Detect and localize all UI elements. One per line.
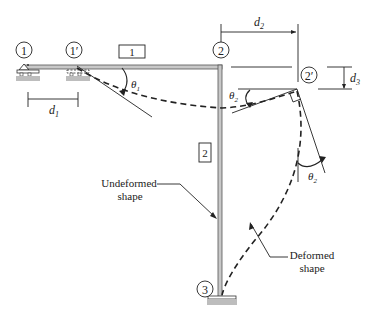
node-2-label: 2 [213, 42, 229, 58]
d1-label: d1 [49, 103, 59, 119]
tangent-line-1 [77, 66, 152, 117]
svg-text:2: 2 [202, 147, 208, 159]
svg-text:Undeformed: Undeformed [101, 177, 157, 189]
d2-label: d2 [254, 15, 264, 31]
element-1-label: 1 [119, 45, 145, 58]
undeformed-annotation: Undeformed shape [101, 177, 217, 219]
tangent-beam-2p [232, 89, 297, 113]
svg-text:shape: shape [117, 190, 142, 202]
svg-text:2′: 2′ [305, 69, 314, 83]
node-1-label: 1 [16, 42, 32, 58]
support-node-1-prime [66, 70, 90, 81]
svg-text:Deformed: Deformed [290, 249, 335, 261]
column-element-2 [218, 65, 222, 297]
node-labels: 1 1′ 2 2′ 3 [16, 42, 317, 297]
d3-label: d3 [350, 71, 360, 87]
node-2-prime-label: 2′ [301, 67, 317, 83]
node-1-prime-label: 1′ [66, 42, 82, 58]
deformed-annotation: Deformed shape [249, 222, 335, 274]
node-3-label: 3 [197, 281, 213, 297]
svg-text:3: 3 [202, 283, 208, 297]
theta2-arc-right [298, 159, 323, 167]
support-node-3-fixed [207, 296, 237, 305]
angle-arrowheads [119, 89, 326, 163]
svg-text:2: 2 [218, 44, 224, 58]
theta2-label-top: θ2 [229, 89, 238, 104]
svg-text:1: 1 [21, 44, 27, 58]
element-2-label: 2 [199, 143, 211, 162]
svg-text:1: 1 [129, 46, 135, 58]
angle-arcs [122, 68, 323, 167]
frame-deformation-diagram: 1 1′ 2 2′ 3 1 2 d1 d2 d3 [0, 0, 375, 323]
deformed-column [222, 91, 301, 295]
dimension-arrowheads [291, 30, 346, 89]
svg-text:shape: shape [299, 262, 324, 274]
svg-text:1′: 1′ [70, 44, 79, 58]
theta1-label: θ1 [131, 78, 140, 93]
tangent-lines [77, 66, 325, 182]
theta2-label-right: θ2 [308, 170, 317, 185]
